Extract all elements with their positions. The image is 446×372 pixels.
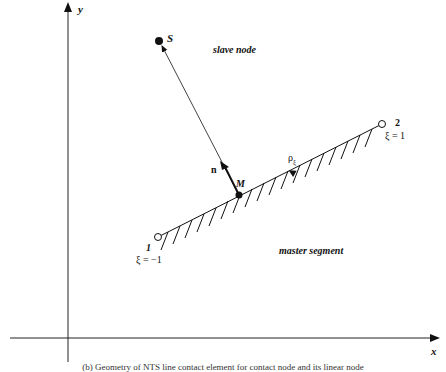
- x-axis-label: x: [431, 346, 437, 357]
- node-2: [379, 121, 386, 128]
- y-axis: [64, 2, 72, 362]
- slave-node-S: [155, 37, 163, 45]
- hatching: [161, 129, 372, 250]
- node-1-coord: ξ = −1: [136, 255, 162, 265]
- contact-point-label: M: [236, 179, 245, 189]
- diagram-graphics: [0, 0, 446, 372]
- y-axis-label: y: [78, 4, 83, 15]
- master-segment-label: master segment: [279, 246, 343, 256]
- contact-geometry-diagram: y x S slave node M n ρξ 2 ξ = 1 1 ξ = −1…: [0, 0, 446, 372]
- node-1: [155, 234, 162, 241]
- node-1-label: 1: [146, 243, 151, 253]
- figure-caption: (b) Geometry of NTS line contact element…: [0, 362, 446, 372]
- tangent-label: ρξ: [288, 153, 296, 166]
- node-2-coord: ξ = 1: [385, 131, 405, 141]
- normal-label: n: [211, 165, 217, 175]
- slave-node-symbol: S: [167, 33, 173, 44]
- master-segment-line: [160, 125, 380, 236]
- slave-node-label: slave node: [213, 45, 256, 55]
- x-axis: [10, 334, 440, 342]
- node-2-label: 2: [395, 118, 400, 128]
- contact-point-M: [236, 192, 243, 199]
